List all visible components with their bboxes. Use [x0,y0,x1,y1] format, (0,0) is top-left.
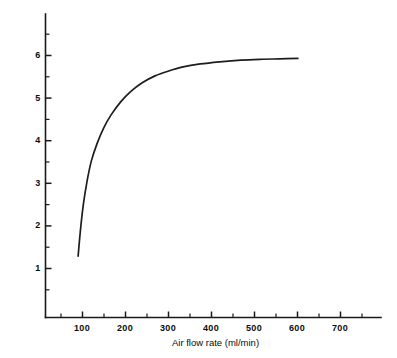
x-tick-label: 400 [203,323,219,333]
x-tick-label: 600 [289,323,305,333]
x-axis-title-text: Air flow rate (ml/min) [172,337,259,348]
y-tick-label: 3 [30,178,41,188]
x-tick-label: 300 [160,323,176,333]
x-tick-label: 500 [246,323,262,333]
x-axis-title: Air flow rate (ml/min) [0,337,397,348]
y-tick-label: 1 [30,263,41,273]
x-tick-label: 700 [332,323,348,333]
y-axis-ticks [46,34,52,290]
y-tick-label: 2 [30,220,41,230]
response-curve [78,58,298,256]
x-tick-label: 100 [74,323,90,333]
y-tick-label: 4 [30,135,41,145]
x-axis-ticks [61,312,362,318]
y-tick-label: 6 [30,50,41,60]
y-tick-label: 5 [30,93,41,103]
x-tick-label: 200 [117,323,133,333]
plot-area [0,0,397,358]
axes-group [46,14,382,318]
chart-figure: 100200300400500600700 123456 Air flow ra… [0,0,397,358]
